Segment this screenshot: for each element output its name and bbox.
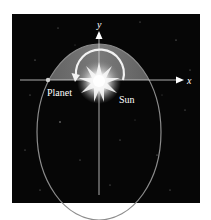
sun-label: Sun [119,94,135,105]
planet-icon [46,78,50,82]
x-axis-label: x [186,75,192,86]
planet-label: Planet [47,87,72,98]
y-axis-label: y [96,19,102,30]
space-background [12,14,200,203]
sun-icon [77,60,121,104]
orbit-diagram: y x Planet Sun [0,0,211,220]
